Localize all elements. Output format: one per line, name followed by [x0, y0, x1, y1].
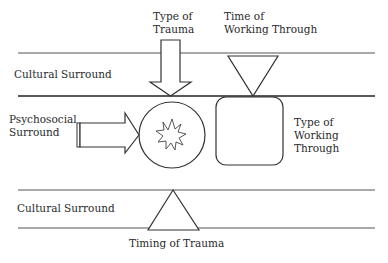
- label-cultural-surround-bottom: Cultural Surround: [17, 202, 115, 215]
- upward-triangle-icon: [148, 190, 199, 230]
- label-time-of-working-through: Time of Working Through: [224, 10, 317, 36]
- label-psychosocial-surround: Psychosocial Surround: [9, 113, 77, 139]
- label-type-of-trauma: Type of Trauma: [153, 10, 194, 36]
- label-type-of-working-through: Type of Working Through: [294, 116, 339, 155]
- trauma-diagram: Type of Trauma Time of Working Through C…: [0, 0, 388, 263]
- working-through-box: [216, 97, 283, 165]
- inverted-triangle-icon: [228, 56, 278, 96]
- right-arrow-icon: [80, 113, 139, 153]
- label-timing-of-trauma: Timing of Trauma: [129, 237, 224, 250]
- down-arrow-icon: [150, 40, 191, 96]
- label-cultural-surround-top: Cultural Surround: [14, 68, 112, 81]
